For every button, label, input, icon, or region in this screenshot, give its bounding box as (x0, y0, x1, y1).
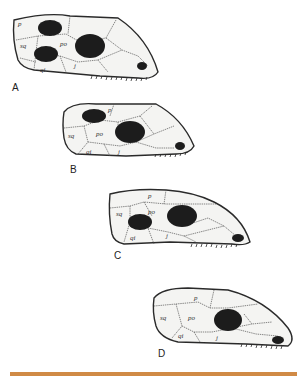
region-label-sq: sq (68, 132, 75, 140)
region-label-p: p (17, 20, 22, 28)
region-label-sq: sq (116, 210, 123, 218)
region-label-j: j (215, 334, 218, 342)
region-label-po: po (147, 208, 156, 216)
wing-b-drawing: p sq po qi j (56, 98, 198, 164)
region-label-p: p (193, 294, 198, 302)
region-label-qi: qi (40, 66, 46, 74)
region-label-po: po (187, 314, 196, 322)
region-label-sq: sq (20, 42, 27, 50)
region-label-j: j (73, 62, 76, 70)
region-label-po: po (95, 130, 104, 138)
bottom-rule (10, 372, 297, 376)
dark-spot (175, 142, 185, 150)
dark-spot (137, 62, 147, 70)
wing-a-drawing: p sq po qi j (8, 10, 160, 82)
region-label-j: j (117, 148, 120, 156)
dark-spot (232, 234, 244, 242)
region-label-sq: sq (160, 314, 167, 322)
dark-spot (128, 214, 152, 230)
wing-panel-a: p sq po qi j A (8, 10, 160, 82)
region-label-qi: qi (178, 332, 184, 340)
dark-spot (167, 205, 197, 227)
region-label-j: j (165, 232, 168, 240)
region-label-p: p (107, 106, 112, 114)
dark-spot (272, 336, 284, 344)
panel-label-a: A (12, 82, 19, 93)
dark-spot (214, 309, 242, 331)
region-label-po: po (59, 40, 68, 48)
wing-figure: p sq po qi j A (0, 0, 302, 379)
dark-spot (34, 46, 58, 62)
dark-spot (75, 34, 105, 58)
region-label-qi: qi (130, 234, 136, 242)
wing-panel-c: p sq po qi j C (104, 186, 254, 252)
dark-spot (115, 121, 145, 143)
panel-label-b: B (70, 164, 77, 175)
panel-label-d: D (158, 348, 165, 359)
wing-panel-d: p sq po qi j D (148, 284, 300, 350)
wing-d-drawing: p sq po qi j (148, 284, 300, 350)
panel-label-c: C (114, 250, 121, 261)
region-label-qi: qi (86, 148, 92, 156)
wing-panel-b: p sq po qi j B (56, 98, 198, 164)
wing-c-drawing: p sq po qi j (104, 186, 254, 252)
region-label-p: p (147, 192, 152, 200)
dark-spot (82, 109, 106, 123)
dark-spot (38, 20, 62, 36)
